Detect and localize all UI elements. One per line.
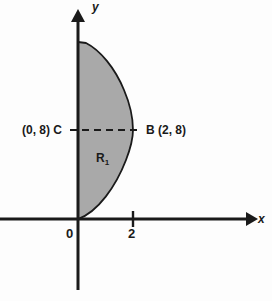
point-label-b: B (2, 8) [146, 124, 186, 136]
x-axis-label: x [258, 213, 265, 225]
y-axis-label: y [92, 1, 99, 13]
region-label-subscript: 1 [105, 158, 109, 167]
x-tick-label-2: 2 [128, 227, 135, 240]
x-axis-arrowhead [246, 212, 258, 226]
origin-label: 0 [66, 227, 73, 240]
geometry-figure: y x 0 2 (0, 8) C B (2, 8) R1 [0, 0, 272, 301]
figure-canvas [0, 0, 272, 301]
y-axis-arrowhead [71, 9, 85, 22]
region-label-letter: R [96, 151, 105, 165]
region-label-r1: R1 [96, 152, 109, 167]
point-label-c: (0, 8) C [22, 124, 62, 136]
